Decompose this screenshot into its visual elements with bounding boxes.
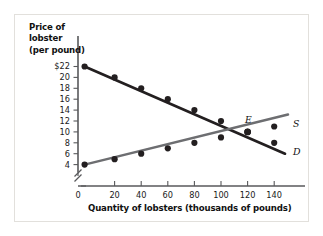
y-tick-label-12: 12 bbox=[48, 116, 70, 126]
x-axis-ticks bbox=[115, 181, 275, 186]
figure: Price of lobster (per pound) Quantity of… bbox=[0, 0, 323, 236]
x-tick-label-60: 60 bbox=[157, 190, 179, 200]
equilibrium-point-label: E bbox=[245, 114, 252, 125]
y-axis-title-line-1: Price of bbox=[29, 22, 109, 33]
y-tick-label-8: 8 bbox=[48, 138, 70, 148]
y-tick-label-10: 10 bbox=[48, 127, 70, 137]
supply-curve-label: S bbox=[293, 118, 299, 129]
y-tick-label-18: 18 bbox=[48, 83, 70, 93]
axis-break-icon bbox=[75, 170, 87, 187]
y-tick-label-20: 20 bbox=[48, 72, 70, 82]
y-axis-title-line-2: lobster bbox=[29, 33, 109, 44]
y-tick-label-4: 4 bbox=[48, 160, 70, 170]
x-axis-title: Quantity of lobsters (thousands of pound… bbox=[88, 203, 291, 214]
y-axis-title: Price of lobster (per pound) bbox=[29, 22, 109, 56]
equilibrium-point-marker bbox=[244, 129, 251, 136]
x-tick-label-100: 100 bbox=[210, 190, 232, 200]
y-axis-title-line-3: (per pound) bbox=[29, 45, 109, 56]
x-tick-label-0: 0 bbox=[67, 190, 89, 200]
x-tick-label-120: 120 bbox=[237, 190, 259, 200]
y-tick-label-14: 14 bbox=[48, 105, 70, 115]
y-tick-label-6: 6 bbox=[48, 149, 70, 159]
y-tick-label-22: $22 bbox=[48, 61, 70, 71]
x-tick-label-40: 40 bbox=[130, 190, 152, 200]
demand-curve-label: D bbox=[293, 146, 301, 157]
x-tick-label-20: 20 bbox=[104, 190, 126, 200]
x-tick-label-140: 140 bbox=[263, 190, 285, 200]
x-tick-label-80: 80 bbox=[183, 190, 205, 200]
y-tick-label-16: 16 bbox=[48, 94, 70, 104]
